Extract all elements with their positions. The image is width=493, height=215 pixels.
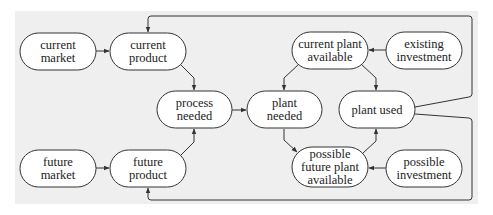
node-future-market: futuremarket <box>20 150 96 187</box>
node-label-line: needed <box>267 109 303 123</box>
node-label-line: process <box>176 96 214 110</box>
node-current-plant-available: current plantavailable <box>292 32 368 69</box>
node-current-product: currentproduct <box>110 33 186 70</box>
node-label-line: current plant <box>298 37 362 51</box>
planning-flow-diagram: currentmarketcurrentproductcurrent plant… <box>0 0 493 215</box>
node-label-line: future plant <box>301 160 359 174</box>
node-label-line: product <box>129 51 168 65</box>
node-label-line: investment <box>397 168 452 182</box>
node-label-line: future <box>43 155 73 169</box>
node-label-line: market <box>41 51 76 65</box>
node-label-line: needed <box>177 109 213 123</box>
node-label-line: plant used <box>351 103 403 117</box>
node-future-product: futureproduct <box>110 150 186 187</box>
node-label-line: existing <box>404 37 444 51</box>
node-label-line: future <box>133 155 163 169</box>
node-label-line: investment <box>397 50 452 64</box>
node-existing-investment: existinginvestment <box>386 32 462 69</box>
node-label-line: possible <box>404 155 445 169</box>
node-current-market: currentmarket <box>20 33 96 70</box>
node-label-line: available <box>307 173 353 187</box>
node-possible-future-plant-available: possiblefuture plantavailable <box>292 147 368 187</box>
node-plant-used: plant used <box>339 91 415 128</box>
node-label-line: product <box>129 168 168 182</box>
node-process-needed: processneeded <box>157 91 232 128</box>
node-label-line: plant <box>272 96 298 110</box>
node-label-line: current <box>40 38 76 52</box>
node-label-line: market <box>41 168 76 182</box>
node-label-line: current <box>130 38 166 52</box>
node-label-line: available <box>307 50 353 64</box>
node-label-line: possible <box>310 147 351 161</box>
node-possible-investment: possibleinvestment <box>386 150 462 187</box>
node-plant-needed: plantneeded <box>247 91 322 128</box>
